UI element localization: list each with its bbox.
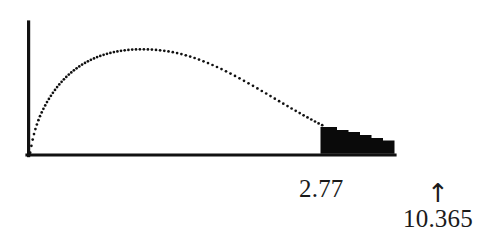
figure-canvas: 2.77 ↑ 10.365 <box>0 0 489 240</box>
critical-value-label: 2.77 <box>299 176 344 201</box>
up-arrow-icon: ↑ <box>427 180 449 206</box>
distribution-plot <box>0 0 489 240</box>
density-curve <box>29 48 324 154</box>
test-statistic-label: 10.365 <box>403 206 473 231</box>
rejection-region-fill <box>321 127 395 154</box>
